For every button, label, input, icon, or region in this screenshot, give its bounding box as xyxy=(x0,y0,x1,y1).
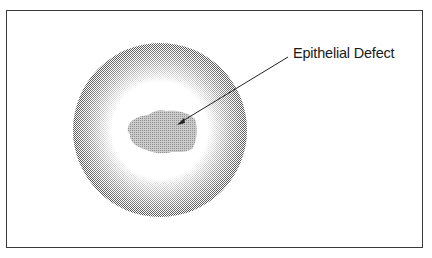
epithelial-defect-label: Epithelial Defect xyxy=(293,45,394,61)
cornea-diagram xyxy=(0,0,432,258)
